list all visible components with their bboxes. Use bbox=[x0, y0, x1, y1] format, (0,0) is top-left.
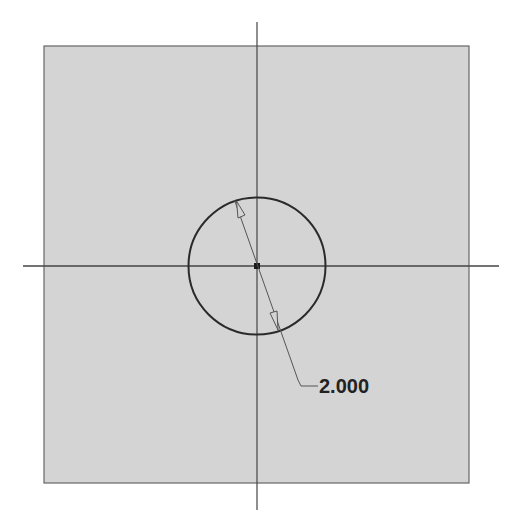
sketch-canvas[interactable]: 2.000 bbox=[0, 0, 516, 522]
dimension-value[interactable]: 2.000 bbox=[319, 375, 369, 397]
